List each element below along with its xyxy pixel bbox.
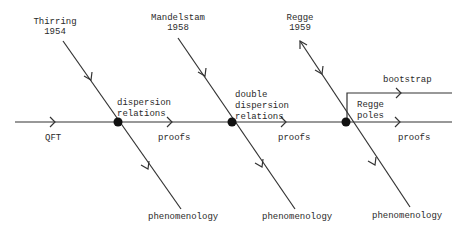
qft-label: QFT — [45, 133, 61, 144]
outcome-phenomenology-3: phenomenology — [372, 211, 442, 222]
branch-line-regge — [300, 41, 410, 207]
node-label-double-dispersion-relations: double dispersion relations — [235, 90, 289, 123]
side-branch-label-bootstrap: bootstrap — [383, 75, 432, 86]
outcome-phenomenology-1: phenomenology — [148, 212, 218, 223]
axis-label-proofs-1: proofs — [158, 133, 190, 144]
node-regge-poles — [342, 118, 351, 127]
axis-label-proofs-2: proofs — [278, 133, 310, 144]
branch-line-mandelstam — [178, 38, 295, 209]
node-label-regge-poles: Regge poles — [357, 100, 384, 122]
origin-year-thirring: 1954 — [20, 27, 90, 38]
node-label-dispersion-relations: dispersion relations — [117, 98, 171, 120]
arrow-icon — [368, 157, 376, 165]
origin-year-regge: 1959 — [275, 23, 325, 34]
origin-year-mandelstam: 1958 — [140, 23, 216, 34]
history-flow-diagram: QFT Thirring 1954 dispersion relations p… — [0, 0, 465, 236]
arrow-up-icon — [300, 41, 307, 49]
outcome-phenomenology-2: phenomenology — [262, 212, 332, 223]
axis-label-proofs-3: proofs — [398, 133, 430, 144]
branch-line-thirring — [63, 41, 181, 209]
